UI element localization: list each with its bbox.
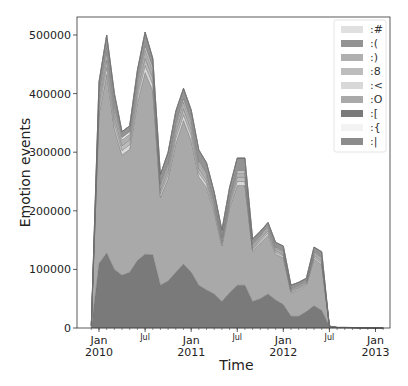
x-tick-label: Jul: [324, 333, 335, 342]
legend-label: :): [370, 51, 378, 64]
y-tick-label: 400000: [29, 88, 71, 101]
legend-swatch: [341, 82, 363, 89]
x-tick-year-label: 2010: [85, 346, 113, 359]
legend-swatch: [341, 40, 363, 47]
y-tick-label: 0: [64, 322, 71, 335]
legend-label: :{: [370, 121, 381, 134]
legend-swatch: [341, 138, 363, 145]
x-axis-ticks: Jan2010JulJan2011JulJan2012JulJan2013: [85, 328, 389, 359]
y-axis-title: Emotion events: [17, 118, 33, 227]
legend-swatch: [341, 124, 363, 131]
y-tick-label: 500000: [29, 29, 71, 42]
legend-label: :<: [370, 79, 383, 92]
x-tick-year-label: 2013: [361, 346, 389, 359]
y-tick-label: 200000: [29, 205, 71, 218]
y-tick-label: 100000: [29, 263, 71, 276]
legend-label: :#: [370, 23, 383, 36]
x-tick-label: Jul: [231, 333, 242, 342]
legend-swatch: [341, 26, 363, 33]
legend-label: :(: [370, 37, 378, 50]
y-tick-label: 300000: [29, 146, 71, 159]
legend-label: :8: [370, 65, 381, 78]
legend-label: :O: [370, 93, 383, 106]
legend-swatch: [341, 96, 363, 103]
legend-label: :|: [370, 135, 377, 148]
legend-swatch: [341, 68, 363, 75]
x-axis-title: Time: [218, 357, 253, 373]
x-tick-year-label: 2011: [177, 346, 205, 359]
x-tick-year-label: 2012: [269, 346, 297, 359]
legend-swatch: [341, 110, 363, 117]
legend-label: :[: [370, 107, 378, 120]
legend-swatch: [341, 54, 363, 61]
stacked-area-chart: 0100000200000300000400000500000 Jan2010J…: [0, 0, 408, 386]
x-tick-label: Jul: [139, 333, 150, 342]
legend: :#:(:):8:<:O:[:{:|: [334, 20, 386, 152]
y-axis-ticks: 0100000200000300000400000500000: [29, 29, 77, 335]
